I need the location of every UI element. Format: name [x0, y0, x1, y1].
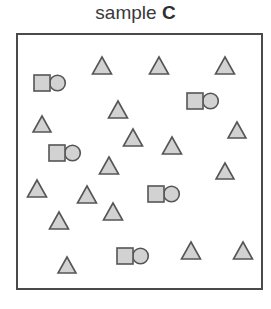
square-icon	[34, 75, 50, 91]
triangle-icon	[108, 101, 127, 118]
circle-icon	[203, 93, 219, 109]
square-icon	[148, 186, 164, 202]
triangle-icon	[92, 57, 111, 74]
triangle-icon	[181, 242, 200, 259]
square-icon	[49, 145, 65, 161]
triangle-icon	[49, 212, 68, 229]
circle-icon	[164, 186, 180, 202]
triangle-icon	[103, 203, 122, 220]
triangle-icon	[27, 180, 46, 197]
triangle-icon	[149, 57, 168, 74]
triangle-icon	[228, 122, 246, 138]
sample-shapes	[0, 0, 271, 309]
triangle-icon	[123, 129, 142, 146]
triangle-icon	[33, 116, 51, 132]
triangle-icon	[162, 137, 181, 154]
triangle-icon	[216, 163, 234, 179]
circle-icon	[65, 145, 81, 161]
square-icon	[187, 93, 203, 109]
triangle-icon	[233, 242, 252, 259]
triangle-icon	[99, 157, 118, 174]
triangle-icon	[77, 186, 96, 203]
triangle-icon	[215, 57, 234, 74]
circle-icon	[50, 75, 66, 91]
square-icon	[117, 248, 133, 264]
triangle-icon	[58, 257, 76, 273]
circle-icon	[133, 248, 149, 264]
